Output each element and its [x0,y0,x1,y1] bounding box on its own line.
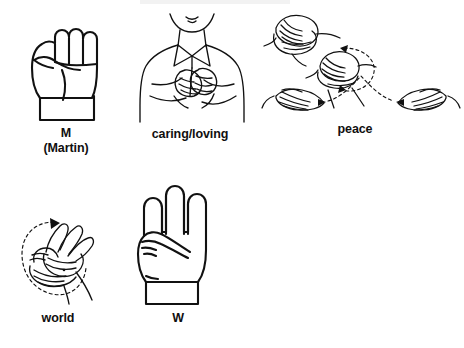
asl-sign-world-illustration [8,208,108,308]
figure-m-martin [22,12,112,124]
peace-panel-1 [264,16,340,67]
caption-caring-loving: caring/loving [130,127,250,142]
asl-sign-peace-sequence-illustration [258,4,464,120]
asl-handshape-w-illustration [124,176,222,308]
caption-peace: peace [300,122,410,137]
figure-caring-loving [136,10,248,124]
caption-w-handshape: W [130,311,226,326]
peace-panel-3 [262,89,324,110]
figure-w-handshape [124,176,222,308]
peace-panel-4 [398,89,460,110]
peace-panel-2 [306,52,376,108]
caption-world: world [10,311,106,326]
worksheet-sheet: M (Martin) [0,0,464,348]
asl-handshape-m-fist-illustration [22,12,112,124]
asl-sign-caring-loving-illustration [136,10,248,124]
figure-world [8,208,108,308]
caption-m-martin: M (Martin) [18,126,114,156]
figure-peace [258,4,464,120]
